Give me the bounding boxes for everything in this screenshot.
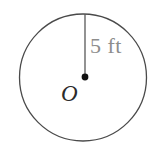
circle-diagram: 5 ft O <box>0 0 158 153</box>
center-point-dot <box>82 74 89 81</box>
circle-diagram-svg <box>0 0 158 153</box>
